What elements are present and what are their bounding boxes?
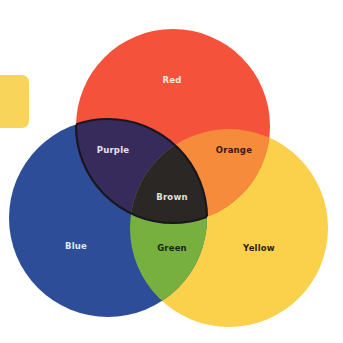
label-purple: Purple (97, 145, 129, 155)
label-red: Red (163, 75, 182, 85)
venn-diagram: Red Purple Orange Brown Blue Green Yello… (0, 0, 343, 343)
label-brown: Brown (156, 192, 187, 202)
label-blue: Blue (65, 241, 87, 251)
label-green: Green (157, 243, 187, 253)
label-orange: Orange (216, 145, 252, 155)
label-yellow: Yellow (242, 243, 275, 253)
